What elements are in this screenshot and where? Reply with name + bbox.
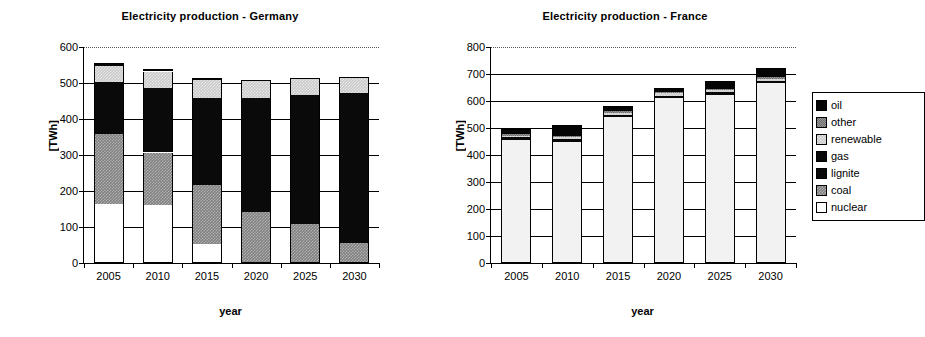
x-tick-label-france-2015: 2015	[606, 270, 630, 282]
gridline-france-100	[491, 236, 796, 237]
bar-segment-germany-2025-lignite	[290, 95, 320, 225]
y-tick-mark-france-200	[486, 209, 491, 210]
bar-segment-germany-2015-lignite	[192, 98, 222, 185]
bar-segment-germany-2020-lignite	[241, 98, 271, 211]
legend-swatch-oil-icon	[816, 100, 827, 111]
bar-segment-france-2030-gas	[756, 81, 786, 83]
bar-top-germany-2025	[290, 78, 320, 79]
legend-label-lignite: lignite	[831, 168, 860, 179]
x-tick-label-germany-2030: 2030	[342, 270, 366, 282]
y-tick-label-germany-500: 500	[60, 77, 78, 89]
bar-germany-2015	[192, 78, 222, 263]
legend-label-oil: oil	[831, 100, 842, 111]
y-tick-label-germany-100: 100	[60, 221, 78, 233]
legend-item-gas: gas	[816, 148, 920, 165]
bar-segment-france-2025-nuclear	[705, 95, 735, 263]
plot-area-germany: 0100200300400500600200520102015202020252…	[83, 47, 379, 264]
bar-segment-france-2030-nuclear	[756, 83, 786, 263]
bar-france-2025	[705, 81, 735, 263]
bar-segment-france-2020-renewable	[654, 93, 684, 95]
legend-item-oil: oil	[816, 97, 920, 114]
bar-segment-germany-2015-coal	[192, 185, 222, 244]
y-tick-label-germany-200: 200	[60, 185, 78, 197]
bar-segment-france-2005-other	[501, 134, 531, 136]
chart-title-germany: Electricity production - Germany	[0, 10, 380, 22]
bar-segment-germany-2010-renewable	[143, 72, 173, 88]
bar-france-2005	[501, 129, 531, 263]
bar-germany-2005	[94, 63, 124, 263]
gridline-germany-300	[84, 155, 379, 156]
bar-segment-france-2020-other	[654, 92, 684, 94]
y-tick-label-france-600: 600	[467, 95, 485, 107]
gridline-germany-500	[84, 83, 379, 84]
y-tick-mark-germany-200	[79, 191, 84, 192]
y-tick-label-germany-300: 300	[60, 149, 78, 161]
legend-swatch-nuclear-icon	[816, 202, 827, 213]
x-tick-mark-germany-2010	[182, 263, 183, 268]
x-tick-label-germany-2010: 2010	[146, 270, 170, 282]
y-tick-label-france-0: 0	[479, 257, 485, 269]
x-tick-label-germany-2015: 2015	[195, 270, 219, 282]
chart-panel-germany: Electricity production - Germany [TWh] 0…	[0, 0, 430, 337]
x-tick-mark-france-2015	[644, 263, 645, 268]
gridline-france-700	[491, 74, 796, 75]
bar-segment-france-2030-other	[756, 77, 786, 79]
gridline-france-600	[491, 101, 796, 102]
x-tick-mark-germany-2015	[232, 263, 233, 268]
x-tick-label-germany-2020: 2020	[244, 270, 268, 282]
x-tick-mark-france-2025	[745, 263, 746, 268]
bar-segment-france-2015-nuclear	[603, 117, 633, 263]
bar-segment-france-2030-renewable	[756, 79, 786, 81]
bar-france-2010	[552, 125, 582, 263]
bar-segment-france-2010-nuclear	[552, 142, 582, 264]
gridline-germany-600	[84, 47, 379, 48]
x-tick-mark-germany-origin	[84, 263, 85, 268]
y-tick-label-france-100: 100	[467, 230, 485, 242]
x-tick-label-france-2020: 2020	[657, 270, 681, 282]
y-tick-label-france-200: 200	[467, 203, 485, 215]
y-tick-mark-france-300	[486, 182, 491, 183]
y-tick-label-germany-600: 600	[60, 41, 78, 53]
bar-segment-france-2025-other	[705, 89, 735, 91]
bar-germany-2025	[290, 78, 320, 263]
y-tick-mark-germany-500	[79, 83, 84, 84]
legend-item-lignite: lignite	[816, 165, 920, 182]
y-tick-label-germany-400: 400	[60, 113, 78, 125]
gridline-germany-200	[84, 191, 379, 192]
bar-segment-germany-2005-coal	[94, 134, 124, 204]
y-tick-mark-france-500	[486, 128, 491, 129]
bar-top-france-2025	[705, 81, 735, 82]
gridline-germany-400	[84, 119, 379, 120]
bar-segment-germany-2005-renewable	[94, 66, 124, 82]
bar-top-germany-2020	[241, 80, 271, 81]
x-tick-mark-france-2005	[542, 263, 543, 268]
bar-segment-germany-2030-lignite	[339, 93, 369, 243]
bar-segment-germany-2010-lignite	[143, 88, 173, 153]
bar-top-france-2010	[552, 125, 582, 126]
legend-swatch-renewable-icon	[816, 134, 827, 145]
legend-item-coal: coal	[816, 182, 920, 199]
bar-segment-germany-2030-coal	[339, 243, 369, 263]
legend-swatch-coal-icon	[816, 185, 827, 196]
bar-france-2020	[654, 88, 684, 263]
y-tick-mark-france-800	[486, 47, 491, 48]
bar-segment-france-2015-other	[603, 111, 633, 113]
legend-label-coal: coal	[831, 185, 851, 196]
y-tick-mark-germany-100	[79, 227, 84, 228]
x-axis-label-france: year	[490, 305, 795, 317]
y-tick-mark-germany-300	[79, 155, 84, 156]
y-tick-mark-france-100	[486, 236, 491, 237]
chart-title-france: Electricity production - France	[460, 10, 790, 22]
legend-label-nuclear: nuclear	[831, 202, 867, 213]
x-tick-mark-france-2030	[796, 263, 797, 268]
bar-segment-france-2005-gas	[501, 137, 531, 139]
bar-top-germany-2010	[143, 69, 173, 70]
y-tick-label-france-400: 400	[467, 149, 485, 161]
bar-segment-germany-2030-renewable	[339, 77, 369, 93]
x-tick-label-france-2025: 2025	[708, 270, 732, 282]
y-tick-mark-france-400	[486, 155, 491, 156]
bar-segment-france-2020-nuclear	[654, 98, 684, 263]
y-axis-label-france: [TWh]	[454, 120, 466, 151]
y-tick-mark-germany-400	[79, 119, 84, 120]
legend-swatch-lignite-icon	[816, 168, 827, 179]
